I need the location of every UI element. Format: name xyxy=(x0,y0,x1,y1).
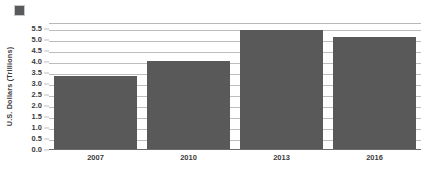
plot-area xyxy=(49,23,421,150)
x-tick-label: 2016 xyxy=(366,153,383,162)
y-tick-label: 3.0 xyxy=(32,80,42,88)
chart-legend xyxy=(14,5,27,18)
y-tick-label: 5.5 xyxy=(32,25,42,33)
y-tick-label: 4.0 xyxy=(32,58,42,66)
bar xyxy=(54,76,136,149)
y-tick-label: 2.0 xyxy=(32,102,42,110)
y-tick-label: 5.0 xyxy=(32,36,42,44)
bar xyxy=(147,61,229,149)
x-tick-label: 2010 xyxy=(180,153,197,162)
y-tick-label: 1.0 xyxy=(32,124,42,132)
x-axis-labels: 2007201020132016 xyxy=(49,151,421,165)
bar xyxy=(240,30,322,149)
y-tick-label: 4.5 xyxy=(32,47,42,55)
legend-swatch-series-1 xyxy=(14,5,25,16)
y-tick-label: 0.5 xyxy=(32,135,42,143)
y-tick-label: 1.5 xyxy=(32,113,42,121)
y-tick-label: 3.5 xyxy=(32,69,42,77)
y-tick-label: 0.0 xyxy=(32,146,42,154)
bar xyxy=(333,37,415,149)
y-tick-label: 2.5 xyxy=(32,91,42,99)
x-tick-label: 2013 xyxy=(273,153,290,162)
bar-chart: U.S. Dollars (Trillions) 0.00.51.01.52.0… xyxy=(0,0,427,172)
bar-series xyxy=(49,24,421,149)
x-tick-label: 2007 xyxy=(87,153,104,162)
y-axis-ticks: 0.00.51.01.52.02.53.03.54.04.55.05.5 xyxy=(0,23,49,150)
